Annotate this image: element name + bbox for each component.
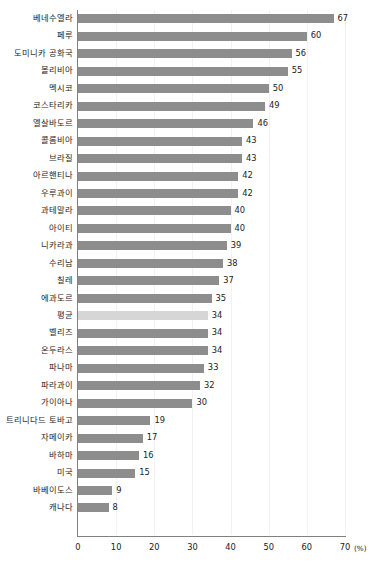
bar-value-label: 50 <box>273 80 284 97</box>
category-label: 과테말라 <box>41 202 73 219</box>
category-label: 미국 <box>57 464 73 481</box>
category-label: 가이아나 <box>41 394 73 411</box>
bar-row: 트리니다드 토바고19 <box>78 412 345 429</box>
x-axis-line <box>77 536 346 537</box>
category-label: 엘살바도르 <box>33 115 73 132</box>
x-tick-label: 40 <box>225 542 236 552</box>
bar-value-label: 33 <box>208 359 219 376</box>
bar-row: 온두라스34 <box>78 342 345 359</box>
bar-row: 바하마16 <box>78 447 345 464</box>
bar <box>78 119 253 128</box>
bar <box>78 311 208 320</box>
bar-value-label: 35 <box>216 290 227 307</box>
category-label: 온두라스 <box>41 342 73 359</box>
bar-row: 볼리비아55 <box>78 62 345 79</box>
bar <box>78 381 200 390</box>
bar-value-label: 60 <box>311 27 322 44</box>
x-tick-label: 30 <box>187 542 198 552</box>
bar-value-label: 55 <box>292 62 303 79</box>
bar-value-label: 15 <box>139 464 150 481</box>
category-label: 수리남 <box>49 255 73 272</box>
bar-row: 평균34 <box>78 307 345 324</box>
bar-row: 엘살바도르46 <box>78 115 345 132</box>
bar <box>78 206 231 215</box>
bar <box>78 224 231 233</box>
bar-value-label: 67 <box>338 10 349 27</box>
bar <box>78 399 192 408</box>
category-label: 파나마 <box>49 359 73 376</box>
bar <box>78 451 139 460</box>
bar-row: 에과도르35 <box>78 290 345 307</box>
bar <box>78 486 112 495</box>
category-label: 콜롬비아 <box>41 132 73 149</box>
bar <box>78 49 292 58</box>
category-label: 평균 <box>57 307 73 324</box>
bar <box>78 14 334 23</box>
bar <box>78 241 227 250</box>
category-label: 칠레 <box>57 272 73 289</box>
bar <box>78 137 242 146</box>
bar-value-label: 37 <box>223 272 234 289</box>
bar-row: 도미니카 공화국56 <box>78 45 345 62</box>
category-label: 니카라과 <box>41 237 73 254</box>
category-label: 벨리즈 <box>49 324 73 341</box>
bar-value-label: 8 <box>113 499 118 516</box>
bar-value-label: 17 <box>147 429 158 446</box>
category-label: 캐나다 <box>49 499 73 516</box>
bar <box>78 503 109 512</box>
bar <box>78 67 288 76</box>
category-label: 아이티 <box>49 220 73 237</box>
x-axis-unit-label: (%) <box>354 544 366 553</box>
bar-row: 미국15 <box>78 464 345 481</box>
bar-row: 코스타리카49 <box>78 97 345 114</box>
bar-value-label: 34 <box>212 342 223 359</box>
category-label: 베네수엘라 <box>33 10 73 27</box>
category-label: 페루 <box>57 27 73 44</box>
category-label: 멕시코 <box>49 80 73 97</box>
bar <box>78 294 212 303</box>
bar-row: 파라과이32 <box>78 377 345 394</box>
bar-row: 벨리즈34 <box>78 324 345 341</box>
bar-row: 아이티40 <box>78 220 345 237</box>
bar <box>78 189 238 198</box>
category-label: 볼리비아 <box>41 62 73 79</box>
bar-value-label: 40 <box>235 220 246 237</box>
bar-value-label: 19 <box>154 412 165 429</box>
bar-value-label: 46 <box>257 115 268 132</box>
category-label: 브라질 <box>49 150 73 167</box>
bar-value-label: 30 <box>196 394 207 411</box>
category-label: 에과도르 <box>41 290 73 307</box>
bar-row: 가이아나30 <box>78 394 345 411</box>
bar-value-label: 32 <box>204 377 215 394</box>
bar <box>78 84 269 93</box>
bar <box>78 259 223 268</box>
bar-value-label: 43 <box>246 150 257 167</box>
bar-row: 멕시코50 <box>78 80 345 97</box>
x-tick-label: 60 <box>302 542 313 552</box>
x-tick-label: 50 <box>263 542 274 552</box>
bar-row: 칠레37 <box>78 272 345 289</box>
bar-row: 니카라과39 <box>78 237 345 254</box>
bar-value-label: 38 <box>227 255 238 272</box>
plot-area: 베네수엘라67페루60도미니카 공화국56볼리비아55멕시코50코스타리카49엘… <box>78 10 345 535</box>
bar-row: 브라질43 <box>78 150 345 167</box>
bar-row: 바베이도스9 <box>78 482 345 499</box>
bar <box>78 172 238 181</box>
bar-value-label: 42 <box>242 185 253 202</box>
bar-row: 캐나다8 <box>78 499 345 516</box>
bar-value-label: 56 <box>296 45 307 62</box>
bar-row: 과테말라40 <box>78 202 345 219</box>
bar-row: 베네수엘라67 <box>78 10 345 27</box>
bar <box>78 154 242 163</box>
bar-row: 우루과이42 <box>78 185 345 202</box>
bar-value-label: 9 <box>116 482 121 499</box>
bar <box>78 32 307 41</box>
bar <box>78 416 150 425</box>
category-label: 자메이카 <box>41 429 73 446</box>
gridline <box>345 10 346 535</box>
x-tick-label: 20 <box>149 542 160 552</box>
bar-row: 콜롬비아43 <box>78 132 345 149</box>
category-label: 트리니다드 토바고 <box>6 412 73 429</box>
bar <box>78 276 219 285</box>
x-tick-label: 70 <box>340 542 351 552</box>
